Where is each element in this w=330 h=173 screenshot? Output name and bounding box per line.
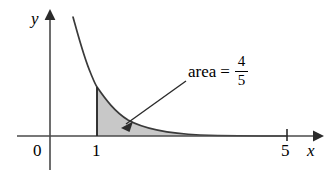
annotation-leader-line	[126, 81, 186, 124]
integral-area-figure: y x 0 1 5 area = 4 5	[0, 0, 330, 173]
fraction-denominator: 5	[236, 73, 248, 89]
fraction-numerator: 4	[236, 54, 248, 70]
area-label-word: area	[188, 62, 216, 82]
area-annotation: area = 4 5	[188, 55, 248, 90]
y-axis-arrowhead	[45, 9, 56, 20]
area-value-fraction: 4 5	[235, 54, 248, 89]
x-tick-label-5: 5	[281, 142, 290, 159]
x-axis-arrowhead	[313, 131, 324, 142]
x-axis-label: x	[307, 142, 315, 159]
y-axis-label: y	[31, 10, 39, 27]
x-tick-label-1: 1	[92, 142, 101, 159]
equals-sign: =	[220, 62, 230, 82]
origin-label: 0	[33, 142, 42, 159]
